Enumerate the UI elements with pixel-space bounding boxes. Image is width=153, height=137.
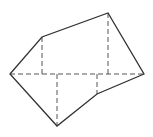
- geometry-diagram: [0, 0, 153, 137]
- dashed-construction-lines: [10, 13, 144, 126]
- hexagon-outline: [10, 13, 144, 126]
